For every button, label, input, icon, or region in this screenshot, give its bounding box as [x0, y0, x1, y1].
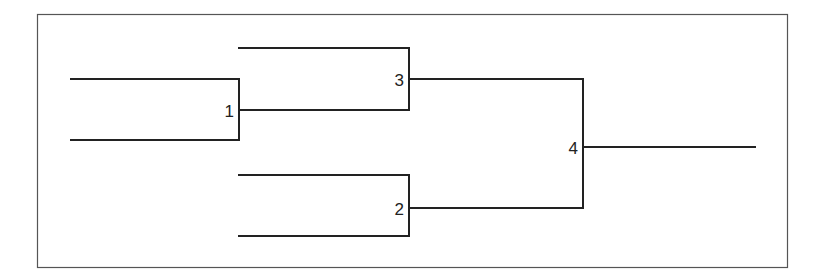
bracket-diagram: 1 3 2 4	[0, 0, 818, 276]
bracket-match-2: 2	[239, 175, 583, 236]
match-label-4: 4	[569, 139, 578, 158]
match-label-2: 2	[395, 200, 404, 219]
bracket-match-4: 4	[569, 79, 755, 208]
bracket-match-3: 3	[239, 48, 583, 110]
bracket-match-1: 1	[71, 79, 409, 140]
match-label-3: 3	[395, 71, 404, 90]
match-label-1: 1	[225, 102, 234, 121]
